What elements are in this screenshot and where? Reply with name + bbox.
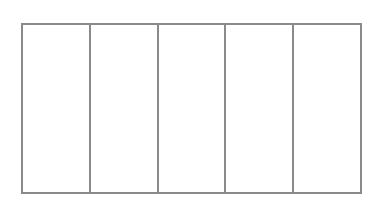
- canvas: [0, 0, 380, 214]
- grid-cell-2: [91, 25, 159, 192]
- grid-cell-1: [23, 25, 91, 192]
- grid-cell-5: [294, 25, 360, 192]
- grid-cell-3: [159, 25, 227, 192]
- five-column-grid: [21, 23, 362, 194]
- grid-cell-4: [226, 25, 294, 192]
